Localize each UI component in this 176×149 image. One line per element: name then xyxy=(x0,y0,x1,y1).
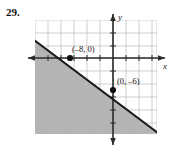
inequality-graph: (–8, 0) (0, –6) y x xyxy=(0,0,176,149)
y-axis-label: y xyxy=(117,12,122,22)
label-y-intercept: (0, –6) xyxy=(117,76,140,86)
point-y-intercept xyxy=(110,87,116,93)
x-axis-label: x xyxy=(162,61,167,71)
figure-container: 29. xyxy=(0,0,176,149)
label-x-intercept: (–8, 0) xyxy=(72,44,95,54)
point-x-intercept xyxy=(67,55,73,61)
problem-number: 29. xyxy=(6,6,20,18)
